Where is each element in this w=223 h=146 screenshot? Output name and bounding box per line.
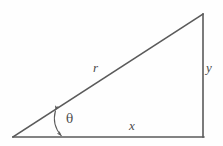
hypotenuse-label: r — [93, 61, 98, 74]
vertical-leg-label: y — [206, 61, 212, 74]
base-leg-label: x — [129, 119, 135, 132]
hypotenuse-line — [13, 14, 203, 137]
angle-arrow — [54, 111, 61, 137]
angle-label-theta: θ — [66, 113, 73, 125]
triangle-diagram-svg — [0, 0, 223, 146]
triangle-figure: r y x θ — [0, 0, 223, 146]
